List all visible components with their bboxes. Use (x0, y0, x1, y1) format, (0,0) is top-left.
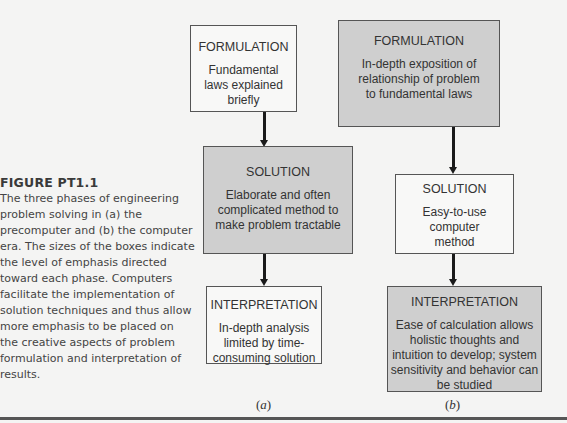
panel-a-solution-box: SOLUTION Elaborate and often complicated… (203, 146, 353, 254)
panel-a-solution-desc: Elaborate and often complicated method t… (213, 188, 343, 233)
panel-b-label: (b) (445, 397, 460, 413)
panel-b-interpretation-box: INTERPRETATION Ease of calculation allow… (387, 286, 542, 392)
panel-b-arrow-1 (452, 127, 455, 169)
panel-a-arrow-2 (263, 254, 266, 281)
panel-a-formulation-desc: Fundamental laws explained briefly (203, 63, 285, 108)
panel-a-label: (a) (256, 397, 271, 413)
panel-b-interpretation-desc: Ease of calculation allows holistic thou… (389, 318, 541, 393)
panel-b-solution-title: SOLUTION (423, 182, 487, 196)
panel-a-formulation-box: FORMULATION Fundamental laws explained b… (190, 25, 297, 112)
panel-a-interpretation-box: INTERPRETATION In-depth analysis limited… (206, 286, 322, 364)
panel-b-formulation-title: FORMULATION (374, 34, 464, 48)
panel-b-interpretation-title: INTERPRETATION (411, 295, 518, 309)
figure-caption-text: The three phases of engineering problem … (0, 191, 195, 383)
panel-a-interpretation-desc: In-depth analysis limited by time-consum… (210, 321, 318, 366)
panel-b-solution-box: SOLUTION Easy-to-use computer method (395, 174, 514, 254)
panel-a-formulation-title: FORMULATION (198, 40, 288, 54)
figure-caption: FIGURE PT1.1 The three phases of enginee… (0, 175, 195, 383)
bottom-rule (0, 417, 567, 420)
panel-a-solution-title: SOLUTION (246, 165, 310, 179)
panel-b-solution-desc: Easy-to-use computer method (420, 205, 490, 250)
figure-label: FIGURE PT1.1 (0, 175, 195, 190)
panel-b-arrow-2 (452, 254, 455, 281)
panel-b-formulation-desc: In-depth exposition of relationship of p… (357, 57, 482, 102)
panel-a-arrow-1 (263, 112, 266, 142)
panel-b-formulation-box: FORMULATION In-depth exposition of relat… (338, 20, 500, 127)
panel-a-interpretation-title: INTERPRETATION (210, 298, 317, 312)
